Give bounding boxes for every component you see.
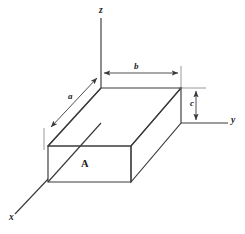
dimension-c-label: c: [190, 99, 194, 108]
box-diagram-svg: [0, 0, 245, 234]
x-axis-label: x: [9, 213, 14, 223]
box-group: [48, 88, 181, 182]
dimension-a-label: a: [68, 92, 73, 101]
dimension-b-label: b: [134, 62, 139, 71]
figure-canvas: z y x b a c A: [0, 0, 245, 234]
y-axis-label: y: [231, 116, 235, 126]
box-front-face: [48, 146, 131, 182]
front-face-area-label: A: [81, 159, 89, 170]
dimension-b-group: [104, 66, 181, 90]
z-axis-label: z: [99, 6, 103, 16]
